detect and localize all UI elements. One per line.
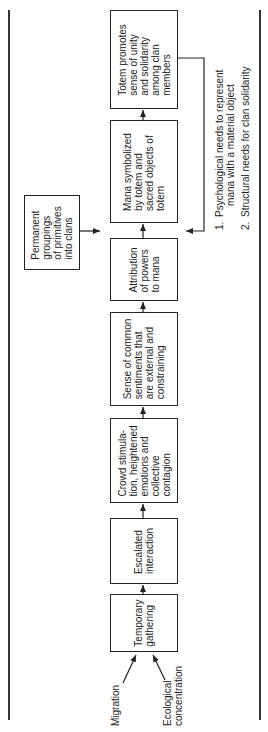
note-2-number: 2. <box>240 222 251 230</box>
step-crowd-stimulation: Crowd stimula- tion, heightened emotions… <box>110 418 178 503</box>
step-attribution-of-powers: Attribution of powers to mana <box>110 238 178 301</box>
input-ecological-concentration: Ecological concentration <box>162 666 184 726</box>
step-label: Sense of common sentiments that are exte… <box>122 319 166 400</box>
step-sense-of-common-sentiments: Sense of common sentiments that are exte… <box>110 312 178 406</box>
side-input-label: Permanent groupings of primitives into c… <box>30 206 74 259</box>
step-escalated-interaction: Escalated interaction <box>110 518 178 584</box>
step-temporary-gathering: Temporary gathering <box>110 594 178 652</box>
note-1-number: 1. <box>214 222 225 230</box>
step-label: Totem promotes sense of unity and solida… <box>117 24 172 96</box>
side-input-permanent-groupings: Permanent groupings of primitives into c… <box>24 195 80 270</box>
step-mana-symbolized: Mana symbolized by totem and sacred obje… <box>110 120 178 223</box>
step-label: Temporary gathering <box>133 599 155 646</box>
step-label: Attribution of powers to mana <box>128 247 161 292</box>
input-migration: Migration <box>110 685 121 726</box>
note-2-structural-needs: Structural needs for clan solidarity <box>240 66 251 217</box>
step-label: Mana symbolized by totem and sacred obje… <box>122 133 166 211</box>
note-1-psychological-needs: Psychological needs to represent mana wi… <box>214 70 236 217</box>
step-totem-promotes-unity: Totem promotes sense of unity and solida… <box>110 10 178 109</box>
step-label: Crowd stimula- tion, heightened emotions… <box>117 425 172 496</box>
step-label: Escalated interaction <box>133 528 155 574</box>
